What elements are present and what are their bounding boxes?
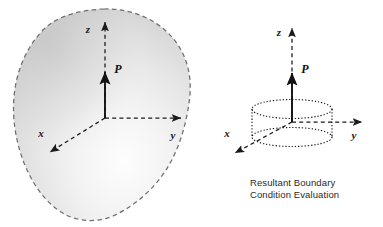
right-x-axis — [235, 122, 292, 153]
right-diagram-group: z y x P Resultant Boundary Condition Eva… — [223, 26, 362, 200]
caption-line-2: Condition Evaluation — [250, 189, 339, 200]
diagram-svg: z y x P z y x P Re — [0, 0, 383, 227]
amorphous-body-shading — [13, 9, 190, 221]
left-force-label: P — [114, 62, 122, 76]
right-z-axis-label: z — [276, 26, 282, 38]
left-diagram-group: z y x P — [13, 9, 190, 221]
right-y-axis-label: y — [350, 129, 357, 141]
left-z-axis-label: z — [85, 23, 91, 35]
figure-canvas: z y x P z y x P Re — [0, 0, 383, 227]
right-force-label: P — [301, 62, 309, 76]
left-y-axis-label: y — [169, 129, 176, 141]
right-x-axis-label: x — [223, 127, 230, 139]
caption-line-1: Resultant Boundary — [250, 177, 335, 188]
left-x-axis-label: x — [37, 127, 44, 139]
